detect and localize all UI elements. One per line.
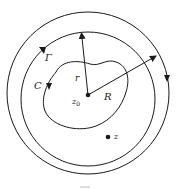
label-R: R — [103, 91, 112, 102]
inner-circle — [21, 32, 155, 166]
point-z — [106, 135, 111, 140]
point-z0 — [86, 93, 91, 98]
label-gamma: Γ — [44, 52, 53, 63]
label-z0-subscript: 0 — [76, 100, 80, 107]
label-c: C — [34, 80, 42, 91]
radius-R-arrow — [88, 56, 156, 95]
outer-right-arrow-icon — [164, 75, 170, 82]
radius-r-arrow — [82, 33, 89, 95]
contour-diagram: Γ C r R z0 z — [0, 0, 176, 189]
label-r: r — [75, 73, 80, 83]
label-z0: z0 — [71, 97, 80, 107]
label-z: z — [113, 132, 119, 141]
